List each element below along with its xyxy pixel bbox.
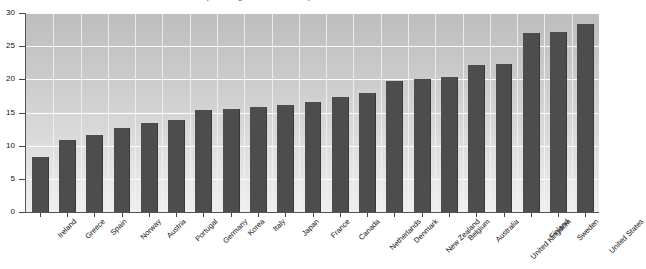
plot-area — [26, 13, 599, 212]
x-tick-label: Korea — [246, 217, 267, 238]
bar — [386, 81, 403, 212]
bar — [332, 97, 349, 212]
y-tick-label: 20 — [6, 75, 15, 83]
bar — [223, 109, 240, 212]
bar — [32, 157, 49, 212]
y-tick-label: 25 — [6, 42, 15, 50]
bar — [86, 135, 103, 212]
bar — [168, 120, 185, 212]
bar — [523, 33, 540, 212]
x-tick-label: United States — [608, 217, 646, 255]
x-tick-label: France — [328, 217, 351, 240]
bar — [550, 32, 567, 212]
x-tick-label: Ireland — [55, 217, 78, 240]
x-tick-label: Australia — [494, 217, 521, 244]
y-tick-label: 5 — [11, 175, 15, 183]
bar — [305, 102, 322, 212]
x-tick-label: Italy — [271, 217, 287, 233]
chart-title: as a percentage of total health expendit… — [0, 0, 601, 2]
x-tick-label: Norway — [138, 217, 162, 241]
bar — [59, 140, 76, 212]
y-axis: 051015202530 — [0, 0, 24, 269]
bar — [250, 107, 267, 212]
bar — [277, 105, 294, 212]
x-tick-label: Portugal — [193, 217, 219, 243]
bar — [114, 128, 131, 212]
bar — [496, 64, 513, 212]
y-tick-label: 0 — [11, 208, 15, 216]
x-axis-labels: IrelandGreeceSpainNorwayAustriaPortugalG… — [26, 217, 599, 269]
y-tick-label: 15 — [6, 109, 15, 117]
bar — [141, 123, 158, 212]
y-tick-label: 30 — [6, 9, 15, 17]
bar — [359, 93, 376, 212]
y-tick-label: 10 — [6, 142, 15, 150]
x-tick-label: Sweden — [575, 217, 601, 243]
bar — [414, 79, 431, 212]
bars-layer — [26, 13, 599, 212]
x-tick-label: Japan — [300, 217, 321, 238]
x-tick-label: Greece — [83, 217, 107, 241]
x-tick-label: Canada — [356, 217, 381, 242]
x-tick-label: Austria — [165, 217, 188, 240]
bar — [441, 77, 458, 212]
bar — [577, 24, 594, 212]
x-tick-label: Spain — [109, 217, 129, 237]
bar — [195, 110, 212, 212]
bar — [468, 65, 485, 212]
